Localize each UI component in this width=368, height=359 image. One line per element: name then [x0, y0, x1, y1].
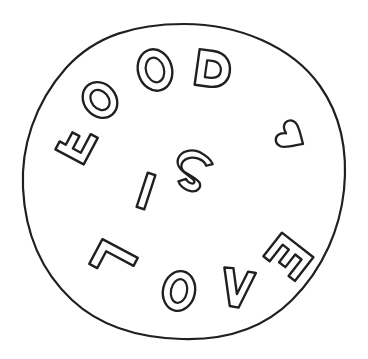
coloring-page-canvas: FOOD IS LOVE Food Is Love Plate F O O D …	[0, 0, 368, 359]
artwork-svg	[0, 0, 368, 359]
